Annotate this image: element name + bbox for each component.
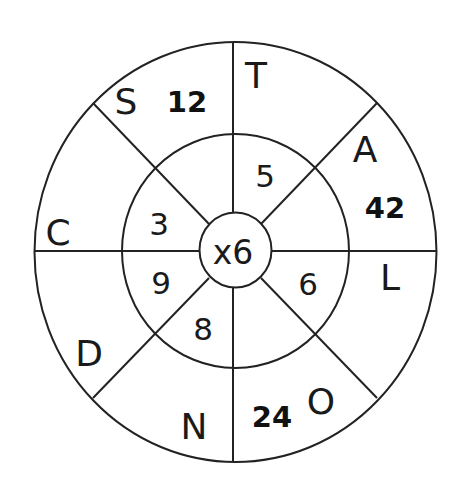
letter-S: S: [115, 81, 138, 122]
letter-D: D: [75, 333, 103, 374]
inner-number-6: 6: [298, 266, 318, 302]
answer-24: 24: [252, 400, 292, 434]
letter-N: N: [181, 406, 208, 447]
inner-number-5: 5: [255, 158, 275, 194]
letter-T: T: [244, 55, 268, 96]
spoke-lower-right: [261, 278, 377, 398]
inner-number-9: 9: [151, 265, 171, 301]
letter-O: O: [307, 381, 335, 422]
inner-number-3: 3: [149, 206, 169, 242]
letter-C: C: [45, 212, 70, 253]
center-multiplier: x6: [213, 233, 254, 272]
letter-L: L: [380, 257, 400, 298]
answer-42: 42: [365, 191, 405, 225]
answer-12: 12: [167, 85, 207, 119]
inner-number-8: 8: [193, 311, 213, 347]
multiplication-wheel: x6 5 3 9 6 8 S T A C L D N O 12 42 24: [0, 0, 455, 493]
letter-A: A: [353, 129, 378, 170]
